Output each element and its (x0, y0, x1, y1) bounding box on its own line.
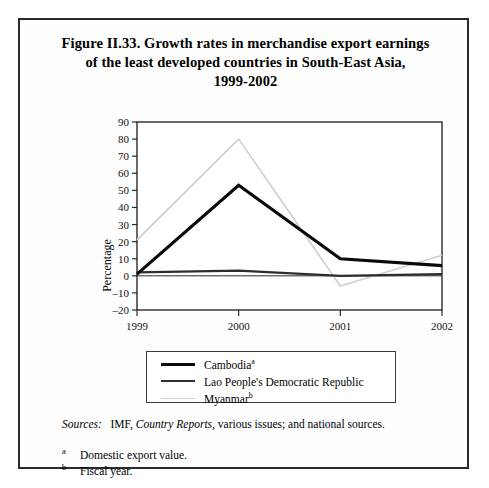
x-tick-label: 2000 (228, 320, 251, 332)
y-tick-label: 80 (118, 133, 130, 145)
y-tick-label: 40 (118, 201, 130, 213)
legend-swatch-icon (161, 398, 195, 399)
y-tick-label: –20 (112, 304, 130, 316)
footnote-a: aDomestic export value. (62, 446, 187, 461)
legend-swatch-icon (161, 380, 195, 382)
legend-label: Myanmarb (204, 391, 253, 405)
legend-item-lao[interactable]: Lao People's Democratic Republic (147, 373, 395, 389)
y-tick-label: 10 (118, 253, 130, 265)
legend-swatch-icon (161, 363, 195, 366)
title-line-3: 1999-2002 (20, 72, 471, 91)
y-tick-label: 0 (124, 270, 130, 282)
sources-note: Sources: IMF, Country Reports, various i… (62, 418, 462, 430)
x-tick-label: 2002 (431, 320, 453, 332)
y-tick-label: 50 (118, 184, 130, 196)
y-tick-label: 30 (118, 219, 130, 231)
title-line-1: Figure II.33. Growth rates in merchandis… (20, 34, 471, 53)
x-tick-label: 1999 (126, 320, 149, 332)
y-tick-label: 70 (118, 150, 130, 162)
footnote-ref: a (251, 357, 255, 366)
plot-wrapper: –20–100102030405060708090199920002001200… (20, 108, 471, 338)
x-tick-label: 2001 (329, 320, 351, 332)
footnote-marker: a (62, 446, 80, 456)
footnote-marker: b (62, 462, 80, 472)
figure-title: Figure II.33. Growth rates in merchandis… (20, 34, 471, 91)
line-chart-svg: –20–100102030405060708090199920002001200… (20, 108, 471, 338)
chart-legend: Cambodiaa Lao People's Democratic Republ… (146, 351, 396, 403)
legend-label: Cambodiaa (204, 357, 255, 371)
legend-item-cambodia[interactable]: Cambodiaa (147, 356, 395, 372)
sources-text-2: , various issues; and national sources. (212, 418, 385, 430)
chart-area: Percentage –20–1001020304050607080901999… (20, 108, 471, 338)
footnote-b: bFiscal year. (62, 462, 132, 477)
y-tick-label: 60 (118, 167, 130, 179)
sources-label: Sources: (62, 418, 102, 430)
legend-item-myanmar[interactable]: Myanmarb (147, 390, 395, 406)
footnote-ref: b (249, 391, 253, 400)
title-line-2: of the least developed countries in Sout… (20, 53, 471, 72)
y-tick-label: 90 (118, 116, 130, 128)
sources-italic-work: Country Reports (136, 418, 212, 430)
footnote-text: Domestic export value. (80, 449, 187, 461)
figure-frame: Figure II.33. Growth rates in merchandis… (18, 18, 469, 469)
sources-text-1: IMF, (110, 418, 135, 430)
footnote-text: Fiscal year. (80, 465, 132, 477)
y-tick-label: –10 (112, 287, 130, 299)
legend-label: Lao People's Democratic Republic (204, 374, 364, 388)
y-tick-label: 20 (118, 236, 130, 248)
